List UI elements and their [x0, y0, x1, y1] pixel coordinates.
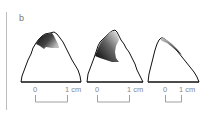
specimen-2: [87, 30, 143, 82]
specimen-1: [21, 32, 81, 82]
scale-bar-3: [166, 95, 182, 102]
scale-1-start-label: 0: [33, 86, 37, 94]
scale-bar-1: [36, 95, 68, 102]
specimen-3: [148, 38, 199, 82]
scale-3-start-label: 0: [163, 86, 167, 94]
scale-3-end-label: 1 cm: [179, 86, 195, 94]
scale-1-end-label: 1 cm: [65, 86, 81, 94]
specimen-drawings: [0, 0, 211, 114]
scale-bar-2: [98, 95, 130, 102]
scale-2-start-label: 0: [95, 86, 99, 94]
scale-2-end-label: 1 cm: [127, 86, 143, 94]
